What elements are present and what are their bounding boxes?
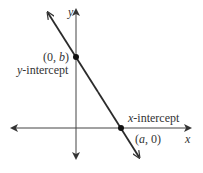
- coord-suffix: , 0): [145, 132, 161, 146]
- coordinate-plane: [0, 0, 203, 173]
- y-intercept-point: [73, 54, 79, 60]
- y-intercept-label: y-intercept: [17, 64, 68, 76]
- x-intercept-label: x-intercept: [128, 112, 179, 124]
- graph-line: [48, 13, 139, 157]
- label-rest: -intercept: [22, 63, 68, 77]
- x-intercept-point: [118, 125, 124, 131]
- y-axis-label: y: [68, 6, 73, 18]
- y-intercept-coordinate: (0, b): [43, 51, 69, 63]
- coord-suffix: ): [65, 50, 69, 64]
- x-axis-label: x: [185, 133, 190, 145]
- coord-prefix: (0,: [43, 50, 59, 64]
- label-rest: -intercept: [133, 111, 179, 125]
- x-intercept-coordinate: (a, 0): [135, 133, 161, 145]
